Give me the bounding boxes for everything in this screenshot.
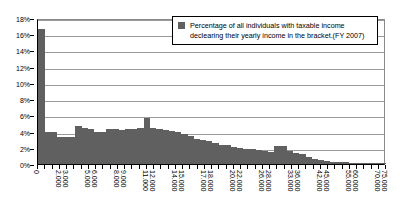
x-axis-tick-label: 45.000: [323, 170, 330, 191]
x-axis-tick-label: 11.000: [142, 170, 149, 191]
x-axis-tick-mark: [110, 165, 111, 169]
income-distribution-chart: 18%16%14%12%10%8%6%4%2%0% 02.0003.0005.0…: [0, 0, 404, 218]
x-axis-tick-label: 55.000: [345, 170, 352, 191]
x-axis-tick-mark: [52, 165, 53, 169]
x-axis-tick-mark: [44, 165, 45, 169]
x-axis-tick-mark: [117, 165, 118, 169]
x-axis-tick-mark: [66, 165, 67, 169]
x-axis-tick-label: 22.000: [236, 170, 243, 191]
x-axis-tick-label: 0: [33, 170, 40, 174]
y-axis-tick-label: 14%: [16, 48, 30, 55]
x-axis-tick-label: 5.000: [84, 170, 91, 188]
x-axis-tick-mark: [334, 165, 335, 169]
x-axis-tick-mark: [378, 165, 379, 169]
y-axis-tick-mark: [30, 133, 34, 134]
x-axis-tick-mark: [204, 165, 205, 169]
x-axis-tick-label: 3.000: [62, 170, 69, 188]
y-axis-tick-label: 12%: [16, 64, 30, 71]
chart-legend: Percentage of all individuals with taxab…: [172, 16, 378, 45]
x-axis-tick-mark: [349, 165, 350, 169]
x-axis-tick-mark: [320, 165, 321, 169]
x-axis-tick-mark: [211, 165, 212, 169]
x-axis-tick-mark: [218, 165, 219, 169]
x-axis-tick-label: 36.000: [294, 170, 301, 191]
x-axis-tick-mark: [131, 165, 132, 169]
y-axis-tick-label: 4%: [20, 129, 30, 136]
x-axis-tick-mark: [182, 165, 183, 169]
x-axis-tick-mark: [153, 165, 154, 169]
x-axis-tick-label: 12.000: [149, 170, 156, 191]
x-axis: 02.0003.0005.0006.0008.0009.00011.00012.…: [37, 170, 385, 218]
x-axis-tick-label: 9.000: [120, 170, 127, 188]
x-axis-tick-mark: [255, 165, 256, 169]
x-axis-tick-mark: [247, 165, 248, 169]
x-axis-tick-mark: [168, 165, 169, 169]
x-axis-tick-mark: [37, 165, 38, 169]
x-axis-tick-mark: [313, 165, 314, 169]
x-axis-tick-mark: [371, 165, 372, 169]
y-axis-tick-label: 6%: [20, 113, 30, 120]
x-axis-tick-mark: [124, 165, 125, 169]
x-axis-tick-label: 18.000: [207, 170, 214, 191]
x-axis-tick-mark: [175, 165, 176, 169]
x-axis-tick-label: 17.000: [200, 170, 207, 191]
y-axis-tick-label: 8%: [20, 97, 30, 104]
x-axis-tick-mark: [226, 165, 227, 169]
x-axis-tick-label: 26.000: [258, 170, 265, 191]
y-axis-tick-label: 0%: [20, 162, 30, 169]
x-axis-tick-mark: [291, 165, 292, 169]
x-axis-tick-mark: [385, 165, 386, 169]
y-axis-tick-mark: [30, 35, 34, 36]
x-axis-tick-label: 60.000: [352, 170, 359, 191]
x-axis-tick-mark: [305, 165, 306, 169]
x-axis-tick-mark: [342, 165, 343, 169]
y-axis-tick-mark: [30, 84, 34, 85]
x-axis-tick-mark: [262, 165, 263, 169]
x-axis-tick-mark: [59, 165, 60, 169]
y-axis-tick-label: 10%: [16, 80, 30, 87]
y-axis-tick-mark: [30, 165, 34, 166]
bar: [380, 163, 387, 164]
x-axis-tick-label: 2.000: [55, 170, 62, 188]
y-axis-tick-label: 18%: [16, 16, 30, 23]
y-axis-tick-mark: [30, 149, 34, 150]
x-axis-tick-mark: [356, 165, 357, 169]
x-axis-tick-mark: [139, 165, 140, 169]
x-axis-tick-mark: [102, 165, 103, 169]
legend-swatch-icon: [178, 22, 185, 29]
x-axis-tick-mark: [327, 165, 328, 169]
x-axis-tick-label: 8.000: [113, 170, 120, 188]
x-axis-tick-label: 20.000: [229, 170, 236, 191]
x-axis-tick-mark: [160, 165, 161, 169]
x-axis-tick-mark: [276, 165, 277, 169]
x-axis-tick-mark: [240, 165, 241, 169]
x-axis-tick-label: 33.000: [287, 170, 294, 191]
y-axis: 18%16%14%12%10%8%6%4%2%0%: [0, 0, 34, 170]
x-axis-tick-mark: [95, 165, 96, 169]
x-axis-tick-mark: [189, 165, 190, 169]
x-axis-tick-label: 28.000: [265, 170, 272, 191]
x-axis-tick-mark: [197, 165, 198, 169]
legend-label: Percentage of all individuals with taxab…: [190, 21, 372, 40]
x-axis-tick-mark: [284, 165, 285, 169]
x-axis-tick-label: 14.000: [171, 170, 178, 191]
x-axis-tick-mark: [363, 165, 364, 169]
x-axis-tick-mark: [269, 165, 270, 169]
y-axis-tick-mark: [30, 100, 34, 101]
x-axis-tick-label: 15.000: [178, 170, 185, 191]
y-axis-tick-mark: [30, 51, 34, 52]
x-axis-tick-label: 6.000: [91, 170, 98, 188]
x-axis-tick-label: 42.000: [316, 170, 323, 191]
y-axis-tick-mark: [30, 19, 34, 20]
x-axis-tick-label: 70.000: [374, 170, 381, 191]
x-axis-tick-mark: [88, 165, 89, 169]
x-axis-tick-mark: [298, 165, 299, 169]
x-axis-tick-label: 75.000: [381, 170, 388, 191]
x-axis-tick-mark: [73, 165, 74, 169]
x-axis-tick-mark: [81, 165, 82, 169]
x-axis-tick-mark: [146, 165, 147, 169]
y-axis-tick-mark: [30, 68, 34, 69]
y-axis-tick-mark: [30, 116, 34, 117]
y-axis-tick-label: 16%: [16, 32, 30, 39]
x-axis-tick-mark: [233, 165, 234, 169]
